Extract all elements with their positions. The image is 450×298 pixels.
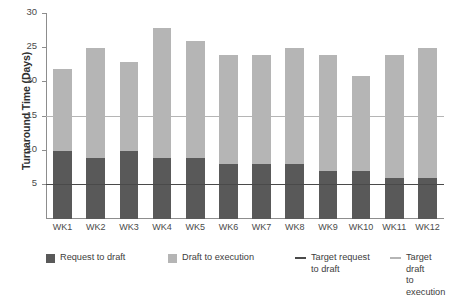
legend-line-icon [390,257,401,259]
x-axis-tick-label: WK7 [245,222,278,232]
x-axis-tick-label: WK10 [345,222,378,232]
bar-segment-draft-to-execution[interactable] [219,55,238,164]
bar-segment-draft-to-execution[interactable] [120,62,139,151]
x-axis-tick-label: WK1 [46,222,79,232]
x-axis-tick-label: WK12 [411,222,444,232]
legend-item[interactable]: Target draft to execution [390,252,446,298]
legend-item[interactable]: Draft to execution [168,252,254,264]
bar-segment-draft-to-execution[interactable] [285,48,304,164]
y-axis-tick-label: 30 [26,6,37,17]
target-reference-line [46,116,444,117]
bar-column[interactable] [252,55,271,219]
bars-layer [46,14,444,219]
chart-legend: Request to draftDraft to executionTarget… [46,252,446,282]
x-axis-tick-label: WK2 [79,222,112,232]
x-axis-tick-label: WK5 [179,222,212,232]
legend-swatch-icon [168,254,177,263]
plot-area: 51015202530 [46,14,444,219]
bar-segment-request-to-draft[interactable] [352,171,371,219]
bar-column[interactable] [219,55,238,219]
bar-column[interactable] [153,28,172,219]
bar-segment-request-to-draft[interactable] [319,171,338,219]
bar-column[interactable] [86,48,105,219]
bar-column[interactable] [53,69,72,219]
bar-segment-request-to-draft[interactable] [186,158,205,220]
y-axis-tick-label: 20 [26,74,37,85]
x-axis-tick-label: WK4 [146,222,179,232]
bar-segment-draft-to-execution[interactable] [153,28,172,158]
x-axis-labels: WK1WK2WK3WK4WK5WK6WK7WK8WK9WK10WK11WK12 [46,222,444,236]
bar-segment-draft-to-execution[interactable] [86,48,105,157]
x-axis-tick-label: WK8 [278,222,311,232]
bar-segment-request-to-draft[interactable] [153,158,172,220]
bar-column[interactable] [285,48,304,219]
legend-label: Target draft to execution [406,252,446,298]
bar-column[interactable] [319,55,338,219]
legend-swatch-icon [46,254,55,263]
bar-column[interactable] [385,55,404,219]
bar-segment-draft-to-execution[interactable] [319,55,338,171]
legend-label: Request to draft [60,252,125,264]
bar-segment-draft-to-execution[interactable] [385,55,404,178]
bar-segment-draft-to-execution[interactable] [352,76,371,172]
bar-segment-request-to-draft[interactable] [252,164,271,219]
y-axis-tick-label: 25 [26,40,37,51]
bar-segment-draft-to-execution[interactable] [418,48,437,178]
legend-item[interactable]: Request to draft [46,252,125,264]
bar-column[interactable] [352,76,371,220]
y-axis-tick-label: 5 [32,177,37,188]
y-axis-tick-label: 15 [26,109,37,120]
x-axis-tick-label: WK11 [378,222,411,232]
bar-segment-draft-to-execution[interactable] [186,41,205,157]
bar-segment-request-to-draft[interactable] [86,158,105,220]
legend-label: Draft to execution [182,252,254,264]
legend-label: Target request to draft [311,252,370,275]
target-reference-line [46,184,444,185]
x-axis-tick-label: WK9 [311,222,344,232]
y-axis-tick-label: 10 [26,143,37,154]
legend-item[interactable]: Target request to draft [295,252,370,275]
bar-column[interactable] [120,62,139,219]
bar-segment-draft-to-execution[interactable] [53,69,72,151]
legend-line-icon [295,257,306,259]
bar-column[interactable] [186,41,205,219]
x-axis-tick-label: WK3 [112,222,145,232]
bar-column[interactable] [418,48,437,219]
bar-segment-request-to-draft[interactable] [285,164,304,219]
x-axis-tick-label: WK6 [212,222,245,232]
bar-segment-request-to-draft[interactable] [219,164,238,219]
bar-segment-draft-to-execution[interactable] [252,55,271,164]
